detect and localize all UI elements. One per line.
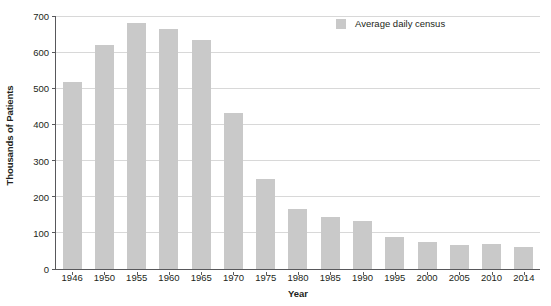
x-tick-mark-1955 [137, 272, 138, 275]
x-tick-mark-1950 [104, 272, 105, 275]
y-tick-label-200: 200 [9, 191, 49, 202]
bar-slot-2000 [411, 16, 443, 269]
bar-1960[interactable] [159, 29, 178, 269]
bar-slot-1965 [185, 16, 217, 269]
x-tick-mark-1975 [266, 272, 267, 275]
x-tick-mark-2014 [524, 272, 525, 275]
x-tick-mark-1995 [395, 272, 396, 275]
bar-slot-2014 [508, 16, 540, 269]
y-tick-label-600: 600 [9, 47, 49, 58]
y-tick-label-700: 700 [9, 11, 49, 22]
bar-slot-2010 [475, 16, 507, 269]
bar-slot-1980 [282, 16, 314, 269]
bar-1965[interactable] [192, 40, 211, 269]
chart-figure: Thousands of Patients 010020030040050060… [0, 0, 551, 306]
bar-slot-1950 [88, 16, 120, 269]
x-axis-line [55, 269, 540, 270]
bar-slot-2005 [443, 16, 475, 269]
bar-2010[interactable] [482, 244, 501, 269]
y-tick-label-300: 300 [9, 155, 49, 166]
x-axis-tick-labels: 1946195019551960196519701975198019851990… [56, 272, 540, 288]
bar-slot-1970 [217, 16, 249, 269]
bar-1995[interactable] [385, 237, 404, 269]
bar-slot-1975 [250, 16, 282, 269]
legend-label-average-daily-census: Average daily census [355, 18, 445, 29]
bar-1950[interactable] [95, 45, 114, 269]
x-tick-mark-1980 [298, 272, 299, 275]
bar-2000[interactable] [418, 242, 437, 269]
y-tick-label-0: 0 [9, 264, 49, 275]
plot-area: 0100200300400500600700 Average daily cen… [56, 16, 540, 269]
bar-slot-1985 [314, 16, 346, 269]
x-tick-mark-1960 [169, 272, 170, 275]
x-tick-mark-1946 [72, 272, 73, 275]
legend: Average daily census [336, 18, 445, 29]
x-tick-mark-1985 [330, 272, 331, 275]
bar-1985[interactable] [321, 217, 340, 269]
bar-2014[interactable] [514, 247, 533, 269]
y-tick-label-500: 500 [9, 83, 49, 94]
x-tick-mark-2010 [492, 272, 493, 275]
bar-1946[interactable] [63, 82, 82, 269]
bar-slot-1946 [56, 16, 88, 269]
bar-1975[interactable] [256, 179, 275, 269]
bar-slot-1960 [153, 16, 185, 269]
x-tick-mark-1970 [233, 272, 234, 275]
x-axis-title: Year [56, 288, 540, 299]
x-tick-mark-2000 [427, 272, 428, 275]
y-tick-label-100: 100 [9, 227, 49, 238]
bar-1980[interactable] [288, 209, 307, 269]
legend-swatch-average-daily-census [336, 19, 346, 29]
x-tick-mark-2005 [459, 272, 460, 275]
bar-1990[interactable] [353, 221, 372, 269]
figure-caption [0, 299, 551, 306]
bar-1955[interactable] [127, 23, 146, 269]
y-tick-label-400: 400 [9, 119, 49, 130]
y-axis-title-text: Thousands of Patients [5, 85, 16, 185]
bar-2005[interactable] [450, 245, 469, 269]
x-tick-mark-1965 [201, 272, 202, 275]
bar-slot-1995 [379, 16, 411, 269]
bar-group [56, 16, 540, 269]
bar-1970[interactable] [224, 113, 243, 269]
bar-slot-1955 [121, 16, 153, 269]
x-tick-mark-1990 [363, 272, 364, 275]
bar-slot-1990 [346, 16, 378, 269]
